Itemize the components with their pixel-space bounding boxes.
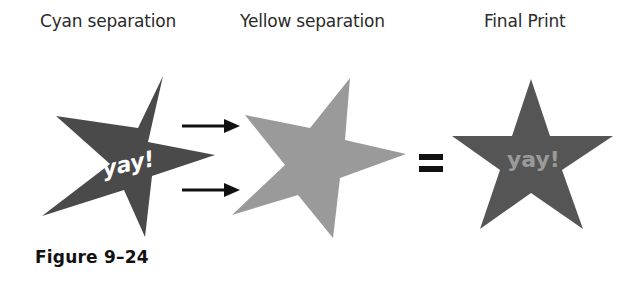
separation-diagram: yay! yay!: [0, 0, 641, 281]
yellow-star: [232, 78, 406, 238]
arrow-bottom-icon: [182, 183, 240, 197]
final-star: yay!: [452, 79, 613, 229]
final-star-text: yay!: [507, 147, 560, 172]
arrow-top-icon: [182, 119, 240, 133]
yellow-star-shape: [232, 78, 406, 238]
cyan-star: yay!: [42, 76, 215, 237]
figure-caption: Figure 9–24: [35, 247, 149, 267]
equals-icon: [419, 154, 443, 172]
